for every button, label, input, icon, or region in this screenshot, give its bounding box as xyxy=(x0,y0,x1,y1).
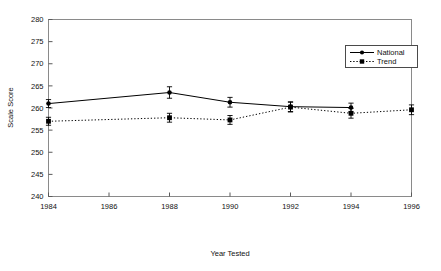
data-point-marker xyxy=(409,107,414,112)
chart-legend[interactable]: National Trend xyxy=(346,46,418,68)
chart-container: 240245250255260265270275280 198419861988… xyxy=(0,0,441,271)
data-point-marker xyxy=(288,105,293,110)
y-tick-label: 275 xyxy=(31,37,44,46)
x-tick-label: 1988 xyxy=(161,202,178,211)
data-point-marker xyxy=(349,111,354,116)
y-tick-label: 265 xyxy=(31,82,44,91)
y-tick-label: 260 xyxy=(31,104,44,113)
scale-score-line-chart: 240245250255260265270275280 198419861988… xyxy=(0,0,441,271)
y-axis-title: Scale Score xyxy=(6,87,15,127)
x-tick-label: 1994 xyxy=(343,202,360,211)
data-point-marker xyxy=(167,115,172,120)
legend-marker-square-icon xyxy=(360,59,364,63)
data-point-marker xyxy=(46,101,51,106)
x-tick-label: 1984 xyxy=(40,202,57,211)
x-tick-label: 1996 xyxy=(403,202,420,211)
x-tick-label: 1990 xyxy=(222,202,239,211)
data-point-marker xyxy=(167,90,172,95)
y-tick-label: 250 xyxy=(31,148,44,157)
data-point-marker xyxy=(46,119,51,124)
y-tick-label: 245 xyxy=(31,170,44,179)
chart-background xyxy=(0,0,441,271)
legend-label-national: National xyxy=(377,48,405,57)
legend-label-trend: Trend xyxy=(377,57,396,66)
data-point-marker xyxy=(228,118,233,123)
y-tick-label: 280 xyxy=(31,15,44,24)
x-tick-label: 1986 xyxy=(101,202,118,211)
x-tick-label: 1992 xyxy=(282,202,299,211)
x-axis-title: Year Tested xyxy=(210,249,249,258)
data-point-marker xyxy=(228,100,233,105)
y-axis-tick-labels: 240245250255260265270275280 xyxy=(31,15,44,201)
y-tick-label: 270 xyxy=(31,59,44,68)
y-tick-label: 240 xyxy=(31,192,44,201)
y-tick-label: 255 xyxy=(31,126,44,135)
legend-marker-circle-icon xyxy=(360,50,364,54)
